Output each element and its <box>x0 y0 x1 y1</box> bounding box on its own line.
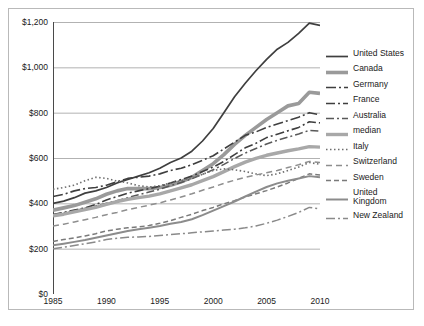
legend-item[interactable]: median <box>326 126 422 137</box>
legend-swatch-icon <box>326 157 348 168</box>
legend-swatch-icon <box>326 191 348 202</box>
legend-item[interactable]: Italy <box>326 141 422 152</box>
y-tick-label: $1,000 <box>22 62 48 72</box>
legend-item[interactable]: United Kingdom <box>326 188 422 206</box>
legend-swatch-icon <box>326 210 348 221</box>
x-tick-label: 1990 <box>97 296 116 306</box>
plot-svg <box>53 22 320 294</box>
legend-label: United Kingdom <box>353 188 387 206</box>
legend-swatch-icon <box>326 79 348 90</box>
y-tick-label: $200 <box>29 244 48 254</box>
y-tick-label: $600 <box>29 153 48 163</box>
y-tick-label: $400 <box>29 198 48 208</box>
legend-label: New Zealand <box>353 211 403 220</box>
legend-item[interactable]: Sweden <box>326 172 422 183</box>
plot-area <box>53 22 320 294</box>
legend-swatch-icon <box>326 95 348 106</box>
legend-item[interactable]: New Zealand <box>326 210 422 221</box>
legend-item[interactable]: France <box>326 95 422 106</box>
legend-label: United States <box>353 49 404 58</box>
legend-item[interactable]: United States <box>326 48 422 59</box>
x-axis-tick-labels: 198519901995200020052010 <box>53 296 320 310</box>
legend-swatch-icon <box>326 64 348 75</box>
legend-swatch-icon <box>326 141 348 152</box>
legend-item[interactable]: Australia <box>326 110 422 121</box>
chart-screenshot: $0$200$400$600$800$1,000$1,200 198519901… <box>0 0 424 326</box>
legend-label: Germany <box>353 80 388 89</box>
legend-label: Italy <box>353 142 369 151</box>
legend-label: Australia <box>353 111 386 120</box>
legend-label: median <box>353 126 381 135</box>
series-line-new-zealand <box>53 207 320 248</box>
x-tick-label: 2010 <box>311 296 330 306</box>
x-tick-label: 2005 <box>257 296 276 306</box>
x-tick-label: 2000 <box>204 296 223 306</box>
x-tick-label: 1995 <box>150 296 169 306</box>
legend-item[interactable]: Germany <box>326 79 422 90</box>
legend-swatch-icon <box>326 110 348 121</box>
chart-legend: United StatesCanadaGermanyFranceAustrali… <box>326 48 422 226</box>
legend-label: Sweden <box>353 173 384 182</box>
legend-swatch-icon <box>326 126 348 137</box>
legend-swatch-icon <box>326 48 348 59</box>
legend-label: Switzerland <box>353 157 397 166</box>
legend-item[interactable]: Switzerland <box>326 157 422 168</box>
legend-label: France <box>353 95 379 104</box>
legend-label: Canada <box>353 64 383 73</box>
legend-swatch-icon <box>326 172 348 183</box>
legend-item[interactable]: Canada <box>326 64 422 75</box>
y-axis-tick-labels: $0$200$400$600$800$1,000$1,200 <box>0 22 48 294</box>
y-tick-label: $1,200 <box>22 17 48 27</box>
y-tick-label: $800 <box>29 108 48 118</box>
x-tick-label: 1985 <box>44 296 63 306</box>
